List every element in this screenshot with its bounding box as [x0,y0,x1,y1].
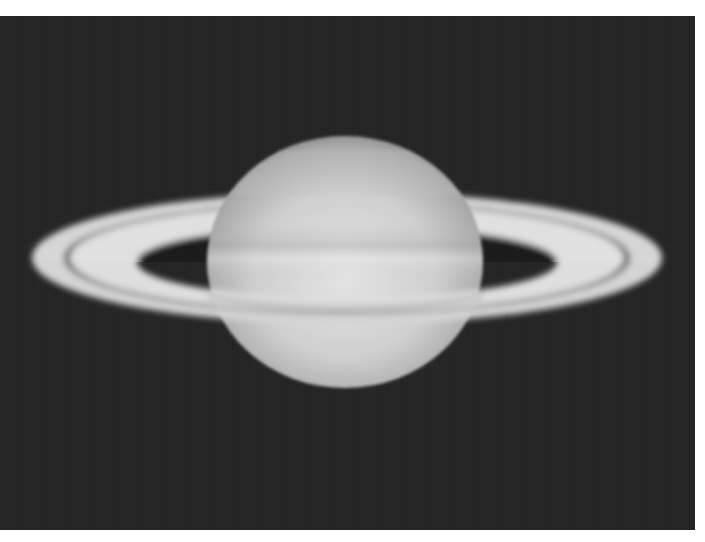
saturn-illustration [0,16,695,530]
saturn-photo: Saturn [0,16,695,530]
